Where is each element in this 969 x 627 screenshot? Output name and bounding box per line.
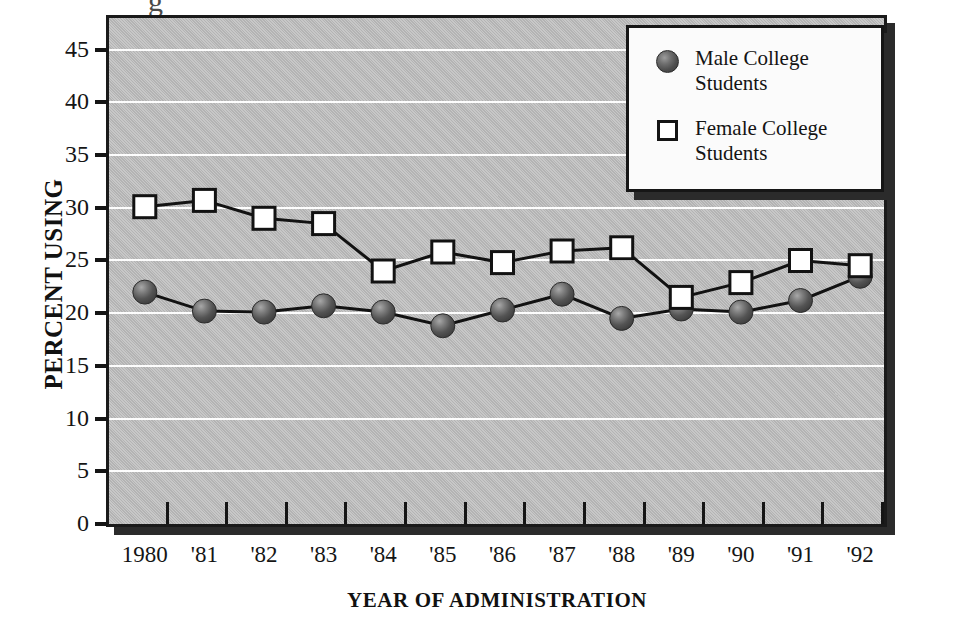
filled-sphere-marker-icon: [656, 50, 679, 73]
legend-label-female-line2: Students: [695, 141, 767, 165]
data-point-square[interactable]: [313, 213, 335, 235]
data-point-sphere[interactable]: [252, 300, 276, 324]
y-axis-tick-label: 20: [45, 300, 89, 324]
y-axis-tick: [95, 469, 108, 473]
data-point-sphere[interactable]: [610, 306, 634, 330]
data-point-sphere[interactable]: [789, 289, 813, 313]
data-point-square[interactable]: [372, 260, 394, 282]
data-point-sphere[interactable]: [431, 314, 455, 338]
legend-key-female: [645, 116, 689, 141]
legend-entry-male[interactable]: Male College Students: [645, 46, 809, 96]
data-point-square[interactable]: [670, 286, 692, 308]
legend: Male College Students Female College Stu…: [626, 25, 884, 192]
data-point-sphere[interactable]: [550, 282, 574, 306]
y-axis-tick-label: 15: [45, 353, 89, 377]
data-point-square[interactable]: [790, 250, 812, 272]
y-axis-tick: [95, 258, 108, 262]
data-point-square[interactable]: [134, 196, 156, 218]
y-axis-tick: [95, 364, 108, 368]
legend-label-male: Male College Students: [689, 46, 809, 96]
data-point-square[interactable]: [849, 255, 871, 277]
y-axis-title: PERCENT USING: [40, 74, 68, 494]
y-axis-tick: [95, 153, 108, 157]
y-axis-tick: [95, 311, 108, 315]
x-axis-tick-label: '92: [825, 542, 895, 568]
y-axis-tick-label: 25: [45, 247, 89, 271]
y-axis-tick: [95, 522, 108, 526]
data-point-sphere[interactable]: [133, 280, 157, 304]
legend-label-female-line1: Female College: [695, 116, 827, 140]
data-point-square[interactable]: [730, 272, 752, 294]
y-axis-tick: [95, 48, 108, 52]
data-point-sphere[interactable]: [491, 298, 515, 322]
legend-key-male: [645, 46, 689, 73]
y-axis-tick-label: 30: [45, 195, 89, 219]
legend-label-female: Female College Students: [689, 116, 827, 166]
data-point-square[interactable]: [611, 237, 633, 259]
y-axis-tick-label: 45: [45, 37, 89, 61]
y-axis-tick-label: 5: [45, 458, 89, 482]
y-axis-tick-label: 40: [45, 89, 89, 113]
legend-label-male-line2: Students: [695, 71, 767, 95]
y-axis-tick-label: 0: [45, 511, 89, 535]
data-point-sphere[interactable]: [312, 294, 336, 318]
y-axis-tick-label: 10: [45, 406, 89, 430]
data-point-square[interactable]: [432, 241, 454, 263]
data-point-square[interactable]: [193, 189, 215, 211]
x-axis-title: YEAR OF ADMINISTRATION: [107, 588, 887, 613]
data-point-sphere[interactable]: [729, 300, 753, 324]
data-point-sphere[interactable]: [192, 299, 216, 323]
y-axis-tick: [95, 206, 108, 210]
legend-entry-female[interactable]: Female College Students: [645, 116, 827, 166]
legend-label-male-line1: Male College: [695, 46, 809, 70]
y-axis-tick-label: 35: [45, 142, 89, 166]
y-axis-tick: [95, 417, 108, 421]
data-point-square[interactable]: [492, 252, 514, 274]
y-axis-tick: [95, 100, 108, 104]
chart-figure: g PERCENT USING 454035302520151050 1980'…: [0, 0, 969, 627]
open-square-marker-icon: [657, 120, 678, 141]
data-point-sphere[interactable]: [371, 300, 395, 324]
data-point-square[interactable]: [253, 207, 275, 229]
data-point-square[interactable]: [551, 240, 573, 262]
